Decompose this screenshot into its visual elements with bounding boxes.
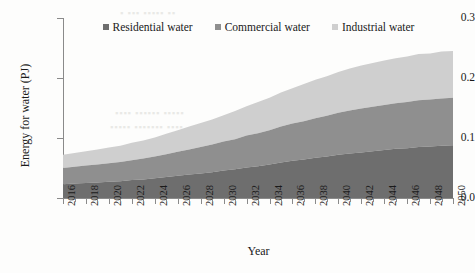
x-tick-mark bbox=[407, 199, 408, 204]
plot-area bbox=[63, 18, 453, 198]
x-tick-mark bbox=[292, 199, 293, 204]
x-tick-label-2022: 2022 bbox=[136, 185, 147, 206]
x-tick-mark bbox=[315, 199, 316, 204]
x-minor-tick-mark bbox=[327, 199, 328, 202]
legend-label-industrial-water: Industrial water bbox=[342, 21, 415, 33]
page-bleed-through: ▪ ▪▪▪ ▪▪▪▪▪ ▪▪ bbox=[120, 8, 176, 18]
x-tick-label-2034: 2034 bbox=[274, 185, 285, 206]
legend-item-industrial-water: Industrial water bbox=[332, 21, 415, 33]
x-tick-label-2016: 2016 bbox=[67, 185, 78, 206]
x-minor-tick-mark bbox=[258, 199, 259, 202]
x-minor-tick-mark bbox=[75, 199, 76, 202]
x-tick-label-2040: 2040 bbox=[342, 185, 353, 206]
x-minor-tick-mark bbox=[442, 199, 443, 202]
x-tick-label-2048: 2048 bbox=[434, 185, 445, 206]
x-tick-label-2026: 2026 bbox=[182, 185, 193, 206]
x-tick-label-2036: 2036 bbox=[296, 185, 307, 206]
legend-swatch-icon bbox=[332, 24, 338, 30]
x-tick-label-2030: 2030 bbox=[228, 185, 239, 206]
x-tick-mark bbox=[86, 199, 87, 204]
x-tick-label-2032: 2032 bbox=[251, 185, 262, 206]
x-minor-tick-mark bbox=[212, 199, 213, 202]
x-tick-label-2044: 2044 bbox=[388, 185, 399, 206]
x-minor-tick-mark bbox=[189, 199, 190, 202]
x-tick-mark bbox=[430, 199, 431, 204]
x-minor-tick-mark bbox=[419, 199, 420, 202]
x-tick-mark bbox=[224, 199, 225, 204]
x-tick-label-2042: 2042 bbox=[365, 185, 376, 206]
x-tick-mark bbox=[338, 199, 339, 204]
x-minor-tick-mark bbox=[373, 199, 374, 202]
x-axis-title: Year bbox=[63, 244, 454, 259]
x-tick-label-2046: 2046 bbox=[411, 185, 422, 206]
x-tick-label-2050: 2050 bbox=[457, 185, 468, 206]
x-tick-mark bbox=[132, 199, 133, 204]
y-axis-title: Energy for water (PJ) bbox=[18, 41, 33, 191]
x-tick-mark bbox=[384, 199, 385, 204]
x-minor-tick-mark bbox=[235, 199, 236, 202]
x-minor-tick-mark bbox=[396, 199, 397, 202]
x-tick-mark bbox=[247, 199, 248, 204]
x-minor-tick-mark bbox=[281, 199, 282, 202]
x-minor-tick-mark bbox=[350, 199, 351, 202]
legend-label-commercial-water: Commercial water bbox=[225, 21, 310, 33]
legend-swatch-icon bbox=[215, 24, 221, 30]
x-tick-mark bbox=[201, 199, 202, 204]
chart-legend: Residential water Commercial water Indus… bbox=[63, 21, 454, 33]
x-tick-mark bbox=[361, 199, 362, 204]
x-minor-tick-mark bbox=[97, 199, 98, 202]
x-minor-tick-mark bbox=[166, 199, 167, 202]
x-tick-mark bbox=[155, 199, 156, 204]
stacked-area-series bbox=[63, 18, 453, 198]
legend-item-residential-water: Residential water bbox=[103, 21, 193, 33]
x-tick-mark bbox=[109, 199, 110, 204]
x-tick-mark bbox=[270, 199, 271, 204]
x-minor-tick-mark bbox=[120, 199, 121, 202]
x-tick-label-2028: 2028 bbox=[205, 185, 216, 206]
x-tick-mark bbox=[453, 199, 454, 204]
legend-label-residential-water: Residential water bbox=[113, 21, 193, 33]
x-tick-mark bbox=[178, 199, 179, 204]
x-tick-label-2018: 2018 bbox=[90, 185, 101, 206]
legend-item-commercial-water: Commercial water bbox=[215, 21, 310, 33]
x-tick-label-2020: 2020 bbox=[113, 185, 124, 206]
x-tick-label-2024: 2024 bbox=[159, 185, 170, 206]
x-tick-mark bbox=[63, 199, 64, 204]
legend-swatch-icon bbox=[103, 24, 109, 30]
x-minor-tick-mark bbox=[304, 199, 305, 202]
figure-container: ▪ ▪▪▪ ▪▪▪▪▪ ▪▪ ▪▪▪▪ ▪▪▪▪▪▪ ▪▪▪▪▪ ▪▪▪▪▪ ▪… bbox=[0, 0, 475, 273]
x-tick-label-2038: 2038 bbox=[319, 185, 330, 206]
x-minor-tick-mark bbox=[143, 199, 144, 202]
